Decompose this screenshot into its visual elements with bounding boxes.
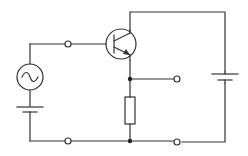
- junction-dot-ground: [128, 139, 132, 143]
- ac-source-icon: [17, 64, 43, 106]
- bias-battery-icon: [17, 107, 43, 141]
- input-terminal-bottom: [65, 138, 71, 144]
- output-terminal-top: [174, 76, 180, 82]
- circuit-diagram: [0, 0, 248, 156]
- npn-transistor-icon: [106, 29, 136, 60]
- supply-battery-icon: [212, 72, 238, 83]
- output-terminal-bottom: [174, 139, 180, 145]
- junction-dot-emitter: [128, 77, 132, 81]
- emitter-wire: [130, 60, 174, 141]
- resistor-icon: [125, 97, 135, 124]
- input-terminal-top: [65, 41, 71, 47]
